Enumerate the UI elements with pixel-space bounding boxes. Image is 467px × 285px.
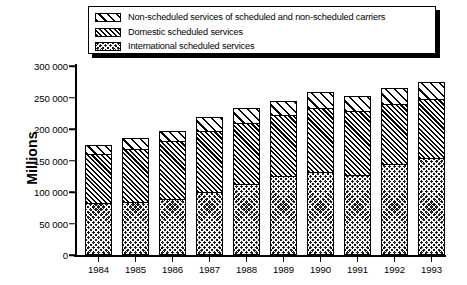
bar-segment[interactable] xyxy=(381,104,408,163)
legend-label-international: International scheduled services xyxy=(128,42,254,52)
y-axis-tick-mark xyxy=(69,160,75,162)
legend-swatch-domestic-icon xyxy=(95,28,121,37)
x-axis-tick-label: 1989 xyxy=(264,264,304,275)
legend-swatch-international-icon xyxy=(95,42,121,51)
bar-segment[interactable] xyxy=(233,184,260,255)
bar-segment[interactable] xyxy=(233,123,260,183)
x-axis-tick-mark xyxy=(394,256,396,262)
bar-segment[interactable] xyxy=(344,111,371,175)
y-axis-tick-label: 0 xyxy=(63,250,68,261)
legend-entry-non-scheduled: Non-scheduled services of scheduled and … xyxy=(95,11,429,25)
y-axis-tick-label: 300 000 xyxy=(34,61,68,72)
bar-segment[interactable] xyxy=(122,138,149,149)
x-axis-tick-mark xyxy=(135,256,137,262)
bar-segment[interactable] xyxy=(381,88,408,104)
y-axis-tick-label: 200 000 xyxy=(34,124,68,135)
x-axis-tick-label: 1986 xyxy=(153,264,193,275)
bar-segment[interactable] xyxy=(122,202,149,255)
x-axis-tick-label: 1992 xyxy=(375,264,415,275)
bar-segment[interactable] xyxy=(159,141,186,199)
y-axis-tick-label: 100 000 xyxy=(34,187,68,198)
bar-group[interactable] xyxy=(344,96,371,255)
x-axis-tick-label: 1987 xyxy=(190,264,230,275)
bar-segment[interactable] xyxy=(381,164,408,255)
x-axis-line xyxy=(74,255,446,257)
y-axis-tick-mark xyxy=(69,223,75,225)
bar-group[interactable] xyxy=(307,92,334,255)
bar-group[interactable] xyxy=(381,88,408,255)
x-axis-tick-mark xyxy=(172,256,174,262)
y-axis-tick-label: 150 000 xyxy=(34,155,68,166)
bar-segment[interactable] xyxy=(85,145,112,154)
bar-segment[interactable] xyxy=(270,115,297,176)
bar-segment[interactable] xyxy=(307,108,334,172)
bar-group[interactable] xyxy=(233,108,260,255)
y-axis-tick-mark xyxy=(69,254,75,256)
bar-segment[interactable] xyxy=(270,101,297,115)
legend-entry-domestic: Domestic scheduled services xyxy=(95,26,429,40)
bar-segment[interactable] xyxy=(307,92,334,108)
bar-segment[interactable] xyxy=(196,192,223,255)
bar-segment[interactable] xyxy=(159,199,186,255)
legend-label-non-scheduled: Non-scheduled services of scheduled and … xyxy=(128,13,385,23)
bar-segment[interactable] xyxy=(418,82,445,100)
bar-segment[interactable] xyxy=(159,131,186,141)
x-axis-tick-label: 1993 xyxy=(412,264,452,275)
bar-segment[interactable] xyxy=(85,203,112,255)
x-axis-tick-label: 1984 xyxy=(79,264,119,275)
bar-group[interactable] xyxy=(196,117,223,255)
bar-segment[interactable] xyxy=(233,108,260,124)
plot-area xyxy=(75,66,445,255)
y-axis-tick-labels: 050 000100 000150 000200 000250 000300 0… xyxy=(0,0,68,285)
bar-segment[interactable] xyxy=(418,158,445,255)
y-axis-tick-label: 250 000 xyxy=(34,92,68,103)
x-axis-tick-mark xyxy=(246,256,248,262)
legend-label-domestic: Domestic scheduled services xyxy=(128,28,243,38)
bar-group[interactable] xyxy=(85,145,112,255)
legend-swatch-non-scheduled-icon xyxy=(95,13,121,22)
bar-group[interactable] xyxy=(122,138,149,255)
bar-segment[interactable] xyxy=(344,175,371,255)
bar-segment[interactable] xyxy=(85,154,112,204)
x-axis-tick-mark xyxy=(98,256,100,262)
bar-segment[interactable] xyxy=(307,172,334,255)
y-axis-tick-label: 50 000 xyxy=(39,218,68,229)
bar-segment[interactable] xyxy=(418,99,445,158)
x-axis-tick-mark xyxy=(431,256,433,262)
bar-group[interactable] xyxy=(418,82,445,255)
bar-segment[interactable] xyxy=(196,131,223,192)
bar-group[interactable] xyxy=(270,101,297,255)
x-axis-tick-mark xyxy=(209,256,211,262)
bar-segment[interactable] xyxy=(196,117,223,131)
bar-segment[interactable] xyxy=(122,149,149,202)
x-axis-tick-mark xyxy=(320,256,322,262)
x-axis-tick-label: 1990 xyxy=(301,264,341,275)
x-axis-tick-label: 1985 xyxy=(116,264,156,275)
y-axis-tick-mark xyxy=(69,191,75,193)
x-axis-tick-mark xyxy=(283,256,285,262)
bar-group[interactable] xyxy=(159,131,186,255)
bar-segment[interactable] xyxy=(344,96,371,111)
x-axis-tick-mark xyxy=(357,256,359,262)
bar-segment[interactable] xyxy=(270,176,297,255)
x-axis-tick-label: 1991 xyxy=(338,264,378,275)
y-axis-tick-mark xyxy=(69,128,75,130)
legend-entry-international: International scheduled services xyxy=(95,40,429,54)
chart-legend: Non-scheduled services of scheduled and … xyxy=(88,6,436,54)
y-axis-tick-mark xyxy=(69,65,75,67)
y-axis-tick-mark xyxy=(69,97,75,99)
x-axis-tick-label: 1988 xyxy=(227,264,267,275)
